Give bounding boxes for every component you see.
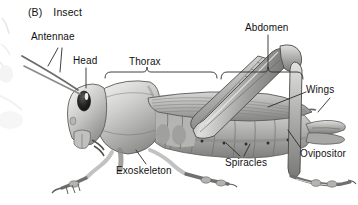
insect-anatomy-figure: (B) Insect Antennae Head Thorax Abdomen … bbox=[0, 0, 358, 205]
label-wings: Wings bbox=[306, 84, 334, 95]
foreleg bbox=[52, 152, 112, 194]
panel-label: (B) Insect bbox=[28, 7, 82, 18]
label-exoskeleton: Exoskeleton bbox=[116, 165, 172, 176]
label-head: Head bbox=[73, 55, 97, 66]
panel-letter: (B) bbox=[28, 6, 42, 18]
label-abdomen: Abdomen bbox=[245, 22, 289, 33]
label-ovipositor: Ovipositor bbox=[300, 148, 346, 159]
hindleg-tarsus bbox=[291, 176, 356, 187]
label-thorax: Thorax bbox=[129, 56, 161, 67]
label-spiracles: Spiracles bbox=[225, 157, 267, 168]
ovipositor-valves bbox=[300, 109, 345, 144]
adjacent-panel-remnant bbox=[0, 18, 23, 129]
antenna-right bbox=[24, 66, 80, 94]
label-antennae: Antennae bbox=[31, 31, 75, 42]
antenna-left bbox=[22, 56, 78, 90]
panel-title-text: Insect bbox=[53, 6, 82, 18]
thorax bbox=[99, 81, 160, 154]
head-capsule bbox=[68, 84, 107, 156]
